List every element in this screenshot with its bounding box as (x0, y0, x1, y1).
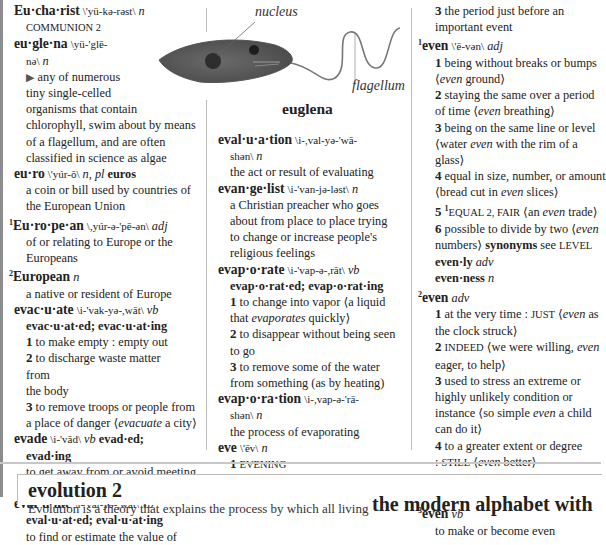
headword: eve (218, 440, 237, 455)
headword: evan·ge·list (218, 181, 284, 196)
entry-evenly: even·ly adv (423, 254, 601, 270)
entry-euro: eu·ro \'yúr-ō\ n, pl euros a coin or bil… (14, 166, 186, 215)
column-divider (206, 100, 207, 450)
headword: Eu·ro·pe·an (13, 218, 84, 233)
label-flagellum: flagellum (352, 78, 405, 94)
entry-evaporate: evap·o·rate \i-'vap-ə-,rāt\ vb evap·o·ra… (218, 262, 386, 392)
entry-european-noun: 2European n a native or resident of Euro… (9, 266, 186, 302)
feature-panel: evolution 2 Evolution is a theory that e… (0, 462, 601, 499)
column-divider (411, 8, 412, 450)
cross-reference: EQUAL 2, FAIR (449, 207, 520, 218)
headword: even (422, 39, 448, 54)
entry-eve-continued: 3 the period just before an important ev… (423, 3, 601, 35)
cross-reference: LEVEL (559, 240, 592, 251)
headword: Eu·cha·rist (14, 3, 80, 18)
feature-text: Evolution is a theory that explains the … (28, 501, 368, 517)
figure-caption: euglena (282, 100, 333, 118)
feature-heading-2: the modern alphabet with (372, 493, 593, 516)
euglena-illustration: nucleus flagellum euglena (155, 0, 400, 130)
pronunciation: \yü-'glē- (71, 38, 108, 50)
entry-even-adj: 1even \'ē-vən\ adj 1 being without break… (418, 35, 601, 254)
entry-evaluation: eval·u·a·tion \i-,val-yə-'wā- shən\ n th… (218, 132, 386, 181)
page-edge (0, 0, 3, 497)
feature-title: evolution 2 (28, 479, 122, 502)
entry-evaporation: evap·o·ra·tion \i-,vap-ə-'rā- shən\ n th… (218, 391, 386, 440)
illustration-arrow-icon: ▶ (26, 71, 34, 83)
headword: evade (14, 431, 47, 446)
headword: evap·o·ra·tion (218, 391, 301, 406)
entry-evenness: even·ness n (423, 270, 601, 286)
headword: evap·o·rate (218, 262, 284, 277)
headword: eval·u·a·tion (218, 132, 292, 147)
label-nucleus: nucleus (255, 4, 298, 20)
headword: evac·u·ate (14, 302, 74, 317)
entry-european-adj: 1Eu·ro·pe·an \,yúr-ə-'pē-ən\ adj of or r… (9, 215, 186, 267)
cross-reference: COMMUNION 2 (26, 22, 101, 33)
pronunciation: \'yü-kə-rəst\ (83, 5, 136, 17)
feature-box: evolution 2 Evolution is a theory that e… (17, 474, 602, 505)
headword: even (422, 290, 448, 305)
dictionary-column-2: eval·u·a·tion \i-,val-yə-'wā- shən\ n th… (218, 132, 386, 506)
headword: eu·gle·na (14, 36, 68, 51)
part-of-speech: n (139, 4, 145, 18)
entry-evacuate: evac·u·ate \i-'vak-yə-,wāt\ vb evac·u·at… (14, 302, 186, 432)
entry-evangelist: evan·ge·list \i-'van-jə-ləst\ n a Christ… (218, 181, 386, 262)
headword: European (13, 269, 70, 284)
headword: eu·ro (14, 166, 45, 181)
dictionary-column-3: 3 the period just before an important ev… (423, 3, 601, 539)
